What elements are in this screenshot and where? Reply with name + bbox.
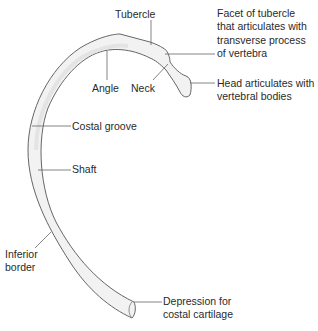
rib-illustration xyxy=(0,0,318,331)
label-inferior-line1: Inferior xyxy=(5,248,38,261)
label-head-line1: Head articulates with xyxy=(217,77,314,90)
label-neck: Neck xyxy=(131,82,155,95)
label-facet-line1: Facet of tubercle xyxy=(217,7,295,20)
label-facet-line2: that articulates with xyxy=(217,20,307,33)
label-facet-line4: of vertebra xyxy=(217,47,267,60)
label-head-line2: vertebral bodies xyxy=(217,90,292,103)
label-angle: Angle xyxy=(92,82,119,95)
label-costal-groove: Costal groove xyxy=(72,120,137,133)
label-facet-line3: transverse process xyxy=(217,34,306,47)
label-depression-line1: Depression for xyxy=(163,295,231,308)
label-depression-line2: costal cartilage xyxy=(163,308,233,321)
leader-lines xyxy=(32,20,215,302)
rib-bone xyxy=(28,34,191,318)
label-inferior-line2: border xyxy=(5,261,35,274)
label-shaft: Shaft xyxy=(72,163,97,176)
label-tubercle: Tubercle xyxy=(115,8,155,21)
